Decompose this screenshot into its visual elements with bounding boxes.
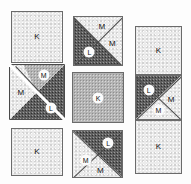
tile-label-m-left: M [80,154,91,165]
tile-label-m-right: M [168,96,175,104]
tile-layout-figure: K M M L K M M L K [0,0,191,184]
tile-label-k: K [156,143,161,151]
tile-label-m-outer: M [17,89,24,97]
tile-middle-left-split[interactable]: M M L [9,64,65,120]
tile-right-bottom-rectangle[interactable]: K [135,120,182,174]
tile-label-m-inner: M [38,70,49,81]
tile-label-m-top: M [98,23,105,31]
tile-label-k: K [34,148,39,156]
tile-label-l-left: L [143,84,154,95]
tile-label-m-bottom: M [97,167,104,175]
tile-right-top-rectangle[interactable]: K [135,26,182,75]
tile-top-middle-x-split[interactable]: M M L [73,16,123,66]
tile-bottom-middle-x-split[interactable]: L M M [72,130,123,178]
tile-label-k: K [34,33,39,41]
tile-label-m-bottom: M [153,105,164,116]
tile-label-l-right: L [103,137,114,148]
tile-label-k-center: K [93,92,104,103]
tile-label-l-left: L [84,46,95,57]
tile-label-m-right: M [109,40,116,48]
tile-bottom-left-square[interactable]: K [11,128,63,176]
tile-right-middle-x-split[interactable]: L M M [135,75,182,120]
tile-label-k: K [156,47,161,55]
tile-top-left-square[interactable]: K [11,11,63,63]
tile-label-l-lower: L [46,102,57,113]
tile-center-square[interactable]: K [72,72,124,123]
